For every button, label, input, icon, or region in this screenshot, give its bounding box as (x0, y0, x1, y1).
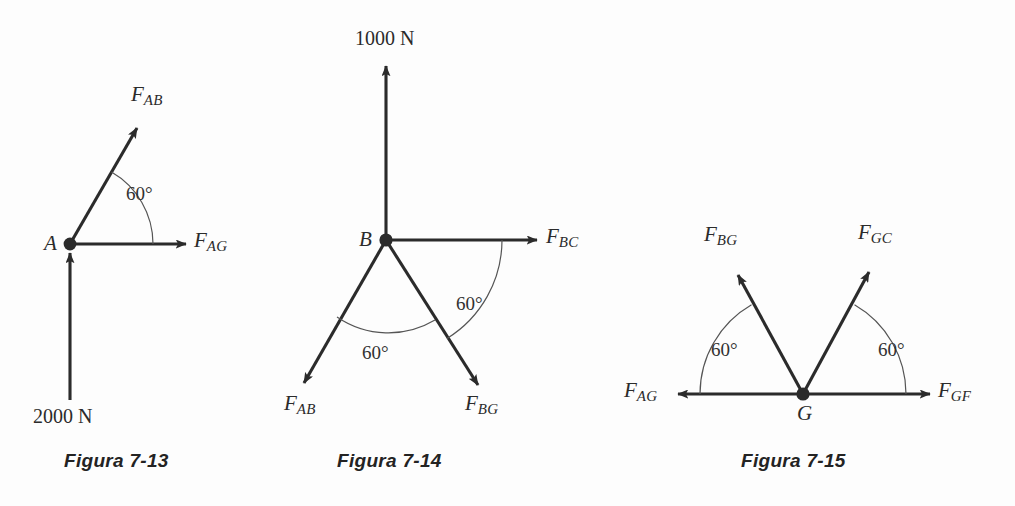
vector-f-gc (803, 272, 869, 394)
label-f-gf: FGF (938, 380, 971, 404)
label-f-ab: FAB (131, 84, 163, 108)
figure-7-13: FAB FAG A 2000 N 60° Figura 7-13 (0, 0, 300, 506)
label-f-ab: FAB (284, 393, 316, 417)
caption-figura-7-15: Figura 7-15 (741, 450, 846, 472)
label-angle-60-left: 60° (711, 340, 738, 359)
node-dot-g (796, 387, 809, 400)
angle-arc-60-bg-ab (337, 317, 435, 333)
label-f-bg: FBG (704, 224, 737, 248)
label-angle-60-bg-ab: 60° (362, 343, 389, 362)
label-f-ag: FAG (194, 230, 227, 254)
label-angle-60-bc-bg: 60° (456, 294, 483, 313)
figure-7-15: FAG FGF FBG FGC G 60° 60° Figura 7-15 (610, 0, 1015, 506)
label-f-bc: FBC (546, 226, 578, 250)
figure-7-13-vectors (0, 0, 300, 460)
label-node-a: A (44, 233, 57, 254)
label-angle-60: 60° (126, 184, 153, 203)
figure-sheet: FAB FAG A 2000 N 60° Figura 7-13 (0, 0, 1015, 506)
figure-7-14: 1000 N B FBC FBG FAB 60° 60° Figura 7-14 (280, 0, 620, 506)
node-dot-a (64, 238, 77, 251)
caption-figura-7-13: Figura 7-13 (64, 450, 169, 472)
vector-f-bg (738, 275, 803, 394)
node-dot-b (379, 233, 392, 246)
label-applied-load-2000n: 2000 N (33, 406, 92, 426)
label-f-gc: FGC (858, 222, 892, 246)
label-node-g: G (797, 403, 812, 424)
label-node-b: B (359, 229, 372, 250)
label-applied-load-1000n: 1000 N (355, 28, 414, 48)
caption-figura-7-14: Figura 7-14 (337, 450, 442, 472)
angle-arc-60-bc-bg (447, 240, 502, 339)
label-f-ag: FAG (624, 380, 657, 404)
label-f-bg: FBG (465, 393, 498, 417)
label-angle-60-right: 60° (878, 340, 905, 359)
